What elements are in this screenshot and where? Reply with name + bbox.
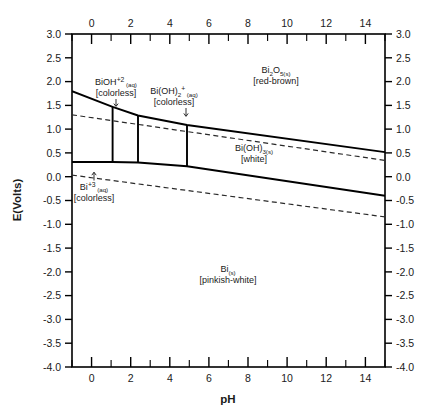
region-label-bi2o5: Bi2O5(s) [red-brown] — [253, 65, 299, 86]
bi3plus-color-note: [colorless] — [74, 193, 115, 203]
bioh2plus-state: (aq) — [126, 81, 137, 88]
right-tick-label--2.5: -2.5 — [396, 289, 414, 301]
right-tick-label-2.5: 2.5 — [396, 52, 411, 64]
bi-solid-color-note: [pinkish-white] — [199, 275, 256, 285]
right-tick-label-3.0: 3.0 — [396, 28, 411, 40]
top-tick-label-6: 6 — [206, 17, 212, 29]
bi3plus-charge: +3 — [88, 181, 96, 188]
right-tick-label--3.5: -3.5 — [396, 337, 414, 349]
svg-text:Bi+3(aq): Bi+3(aq) — [80, 181, 108, 194]
left-axis-ticks — [65, 34, 72, 367]
left-tick-label--3.5: -3.5 — [43, 337, 61, 349]
right-tick-label--0.5: -0.5 — [396, 194, 414, 206]
right-tick-label--4.0: -4.0 — [396, 361, 414, 373]
bottom-tick-label-12: 12 — [320, 372, 332, 384]
region-label-bi-solid: Bi(s) [pinkish-white] — [199, 264, 256, 285]
right-tick-label--3.0: -3.0 — [396, 313, 414, 325]
bottom-tick-label-0: 0 — [89, 372, 95, 384]
right-tick-label-0.5: 0.5 — [396, 147, 411, 159]
x-axis-title: pH — [220, 393, 235, 405]
bioh2plus-formula: BiOH — [95, 77, 117, 87]
bi3plus-formula: Bi — [80, 182, 88, 192]
svg-text:Bi(OH)2+(aq): Bi(OH)2+(aq) — [150, 85, 197, 99]
left-tick-label--4.0: -4.0 — [43, 361, 61, 373]
top-tick-label-8: 8 — [245, 17, 251, 29]
right-tick-label-1.0: 1.0 — [396, 123, 411, 135]
bi-oh-2-plus-color-note: [colorless] — [154, 97, 195, 107]
bioh2plus-arrow-icon — [114, 99, 118, 106]
svg-text:BiOH+2(aq): BiOH+2(aq) — [95, 76, 137, 89]
bottom-tick-label-4: 4 — [167, 372, 173, 384]
pourbaix-diagram-svg: 0 2 4 6 8 10 12 14 — [0, 0, 433, 414]
top-tick-label-14: 14 — [360, 17, 372, 29]
top-tick-label-12: 12 — [320, 17, 332, 29]
left-axis-tick-labels: 3.0 2.5 2.0 1.5 1.0 0.5 0.0 -0.5 -1.0 -1… — [43, 28, 61, 373]
bi-oh-2-plus-formula: Bi(OH) — [150, 86, 178, 96]
region-label-bi-oh-2-plus: Bi(OH)2+(aq) [colorless] — [150, 85, 197, 117]
right-tick-label-2.0: 2.0 — [396, 75, 411, 87]
left-tick-label-2.5: 2.5 — [46, 52, 61, 64]
bi2o5-color-note: [red-brown] — [253, 76, 299, 86]
bi-oh-2-plus-arrow-icon — [184, 108, 188, 116]
bioh3-formula: Bi(OH) — [235, 143, 263, 153]
bi2o5-o: O — [273, 65, 280, 75]
bi-oh-2-plus-charge: + — [181, 85, 185, 92]
bottom-tick-label-8: 8 — [245, 372, 251, 384]
lower-solid-boundary-line — [72, 162, 385, 196]
right-axis-tick-labels: 3.0 2.5 2.0 1.5 1.0 0.5 0.0 -0.5 -1.0 -1… — [396, 28, 414, 373]
bi3plus-arrow-icon — [92, 172, 96, 180]
top-tick-label-10: 10 — [281, 17, 293, 29]
bottom-tick-label-6: 6 — [206, 372, 212, 384]
bottom-axis-tick-labels: 0 2 4 6 8 10 12 14 — [89, 372, 372, 384]
bioh2plus-color-note: [colorless] — [96, 88, 137, 98]
region-label-bi3plus: Bi+3(aq) [colorless] — [74, 172, 115, 203]
bottom-axis-ticks — [72, 357, 385, 367]
left-tick-label--3.0: -3.0 — [43, 313, 61, 325]
left-tick-label-1.0: 1.0 — [46, 123, 61, 135]
right-tick-label--2.0: -2.0 — [396, 266, 414, 278]
upper-solid-boundary-line — [72, 91, 385, 152]
plot-frame — [72, 34, 385, 367]
bi2o5-formula: Bi — [261, 65, 269, 75]
right-tick-label-1.5: 1.5 — [396, 99, 411, 111]
pourbaix-diagram-figure: 0 2 4 6 8 10 12 14 — [0, 0, 433, 414]
water-oxidation-dashed-line — [72, 115, 385, 161]
top-tick-label-0: 0 — [89, 17, 95, 29]
left-tick-label-3.0: 3.0 — [46, 28, 61, 40]
right-tick-label--1.0: -1.0 — [396, 218, 414, 230]
left-tick-label--1.0: -1.0 — [43, 218, 61, 230]
bioh3-color-note: [white] — [241, 154, 267, 164]
left-tick-label--1.5: -1.5 — [43, 242, 61, 254]
top-tick-label-4: 4 — [167, 17, 173, 29]
bottom-tick-label-10: 10 — [281, 372, 293, 384]
bioh2plus-charge: +2 — [117, 76, 125, 83]
left-tick-label-0.5: 0.5 — [46, 147, 61, 159]
region-label-bioh3: Bi(OH)3(s) [white] — [235, 143, 273, 164]
left-tick-label-2.0: 2.0 — [46, 75, 61, 87]
water-reduction-dashed-line — [72, 175, 385, 217]
right-axis-ticks — [385, 34, 392, 367]
right-tick-label--1.5: -1.5 — [396, 242, 414, 254]
bi-solid-formula: Bi — [220, 264, 228, 274]
left-tick-label-1.5: 1.5 — [46, 99, 61, 111]
left-tick-label-0.0: 0.0 — [46, 171, 61, 183]
right-tick-label-0.0: 0.0 — [396, 171, 411, 183]
left-tick-label--0.5: -0.5 — [43, 194, 61, 206]
left-tick-label--2.0: -2.0 — [43, 266, 61, 278]
bi3plus-state: (aq) — [97, 186, 108, 193]
top-axis-ticks — [72, 34, 385, 44]
bottom-tick-label-2: 2 — [128, 372, 134, 384]
left-tick-label--2.5: -2.5 — [43, 289, 61, 301]
bottom-tick-label-14: 14 — [360, 372, 372, 384]
top-tick-label-2: 2 — [128, 17, 134, 29]
y-axis-title: E(Volts) — [11, 179, 23, 222]
top-axis-tick-labels: 0 2 4 6 8 10 12 14 — [89, 17, 372, 29]
